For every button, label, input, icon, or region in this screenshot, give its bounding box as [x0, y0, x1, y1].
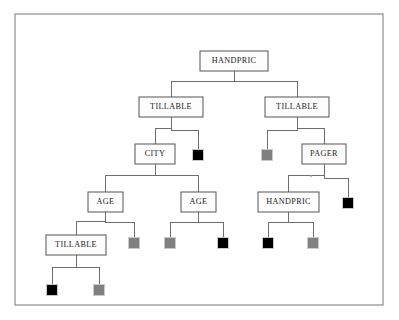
- speck-mark: [310, 175, 312, 177]
- tree-node-l1_left: TILLABLE: [139, 97, 203, 117]
- leaf-node-gray: [94, 285, 105, 296]
- leaf-node-black: [343, 198, 354, 209]
- leaf-node-black: [218, 238, 229, 249]
- node-label: CITY: [145, 149, 166, 158]
- leaf-node-gray: [165, 238, 176, 249]
- leaf-node-black: [263, 238, 274, 249]
- tree-node-l3_age_right: AGE: [181, 192, 216, 212]
- tree-node-root: HANDPRIC: [200, 51, 268, 71]
- tree-canvas: HANDPRICTILLABLETILLABLECITYPAGERAGEAGEH…: [0, 0, 399, 320]
- tree-node-l3_age_left: AGE: [88, 192, 123, 212]
- leaf-node-gray: [262, 150, 273, 161]
- tree-node-l1_right: TILLABLE: [265, 97, 329, 117]
- node-label: TILLABLE: [55, 240, 97, 249]
- node-label: PAGER: [310, 149, 338, 158]
- tree-node-l4_tillable: TILLABLE: [46, 235, 106, 255]
- decision-tree-diagram: HANDPRICTILLABLETILLABLECITYPAGERAGEAGEH…: [0, 0, 399, 320]
- leaf-node-gray: [308, 238, 319, 249]
- tree-node-l3_handpric: HANDPRIC: [258, 192, 319, 212]
- node-label: AGE: [190, 197, 208, 206]
- node-label: AGE: [97, 197, 115, 206]
- leaf-node-gray: [129, 238, 140, 249]
- node-label: TILLABLE: [150, 102, 192, 111]
- node-label: HANDPRIC: [212, 56, 257, 65]
- node-label: TILLABLE: [276, 102, 318, 111]
- tree-node-l2_pager: PAGER: [302, 144, 346, 164]
- leaf-node-black: [47, 285, 58, 296]
- leaf-node-black: [193, 150, 204, 161]
- tree-node-l2_city: CITY: [135, 144, 175, 164]
- node-label: HANDPRIC: [266, 197, 311, 206]
